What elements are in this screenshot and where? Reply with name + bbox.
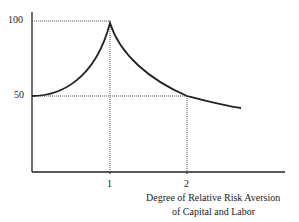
x-tick-label-1: 1 — [107, 179, 112, 189]
x-axis-label-line2: of Capital and Labor — [172, 207, 255, 217]
data-curve — [32, 23, 241, 108]
x-tick-label-2: 2 — [184, 179, 189, 189]
y-tick-label-100: 100 — [8, 15, 23, 25]
x-axis-label-line1: Degree of Relative Risk Aversion — [146, 193, 280, 203]
y-tick-label-50: 50 — [14, 90, 24, 100]
chart-canvas — [0, 0, 299, 222]
